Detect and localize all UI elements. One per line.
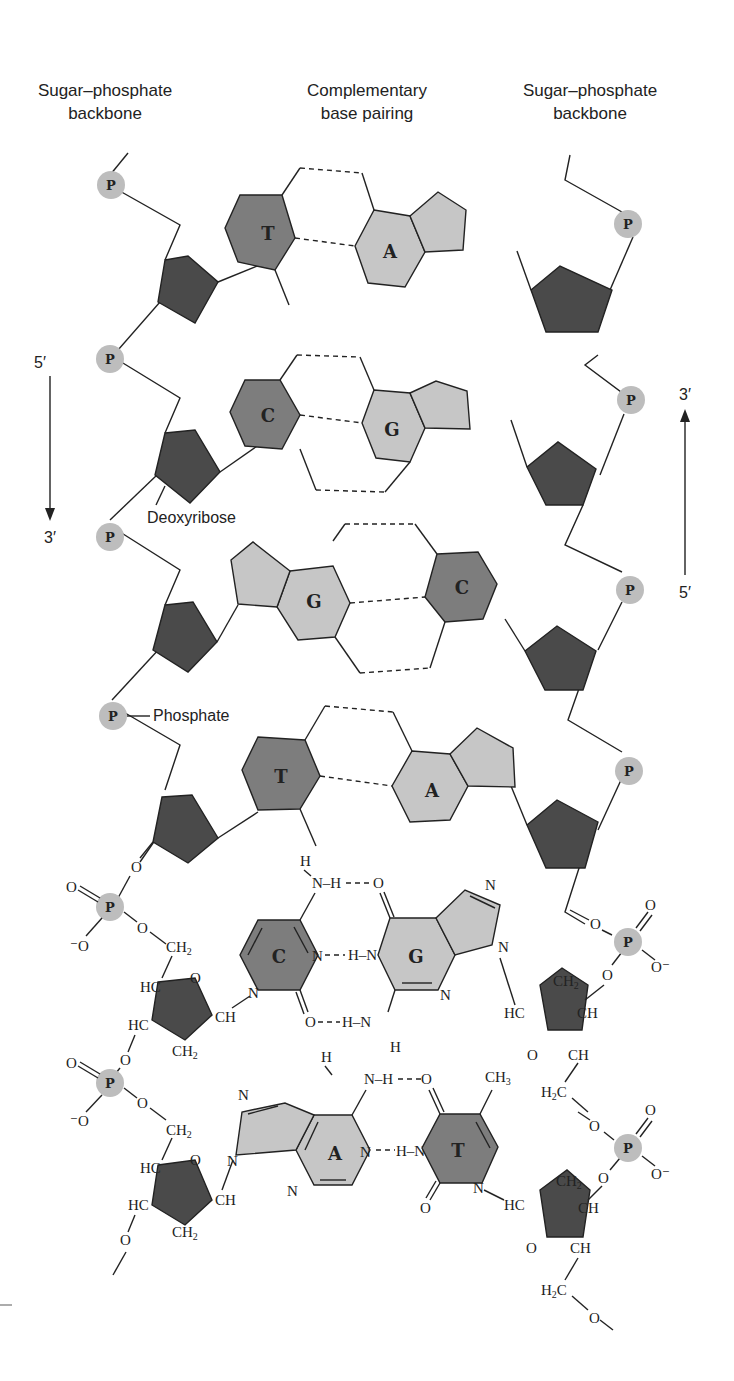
- svg-text:G: G: [306, 591, 321, 612]
- svg-text:O: O: [645, 897, 656, 913]
- svg-text:P: P: [623, 217, 633, 232]
- svg-text:N: N: [227, 1153, 238, 1169]
- svg-text:T: T: [274, 766, 288, 787]
- svg-text:P: P: [623, 935, 633, 950]
- svg-text:H–N: H–N: [348, 947, 377, 963]
- base-pair-T-A: T A: [242, 706, 515, 846]
- svg-text:P: P: [105, 1076, 115, 1091]
- svg-text:Sugar–phosphate: Sugar–phosphate: [523, 81, 657, 100]
- svg-text:P: P: [106, 178, 116, 193]
- svg-text:CH: CH: [570, 1240, 591, 1256]
- svg-text:base pairing: base pairing: [321, 104, 414, 123]
- svg-text:H2C: H2C: [541, 1282, 567, 1300]
- svg-text:CH2: CH2: [166, 1122, 192, 1140]
- deoxyribose-sugar: [527, 800, 598, 868]
- phosphate-group: P: [614, 928, 642, 956]
- phosphate-group: P: [96, 345, 124, 373]
- svg-text:CH2: CH2: [172, 1224, 198, 1242]
- deoxyribose-sugar: [525, 626, 596, 690]
- phosphate-group: P: [97, 171, 125, 199]
- deoxyribose-sugar: [153, 795, 218, 863]
- svg-text:O: O: [590, 916, 601, 932]
- deoxyribose-sugar: [155, 430, 220, 503]
- svg-text:C: C: [261, 405, 275, 426]
- svg-text:P: P: [625, 583, 635, 598]
- svg-text:N: N: [360, 1144, 371, 1160]
- svg-text:HC: HC: [504, 1005, 525, 1021]
- arrow-down-icon: [45, 508, 55, 521]
- right-backbone: P P P P: [505, 155, 645, 924]
- svg-text:P: P: [105, 900, 115, 915]
- svg-text:O: O: [131, 859, 142, 875]
- svg-text:CH3: CH3: [485, 1069, 511, 1087]
- svg-text:HC: HC: [128, 1017, 149, 1033]
- deoxyribose-sugar: [152, 1160, 212, 1225]
- svg-text:O: O: [589, 1118, 600, 1134]
- svg-text:N: N: [287, 1183, 298, 1199]
- chemical-base-pair-A-T: P O ⁻O O CH2 HC O CH HC CH2 O A N N N N …: [66, 1049, 670, 1330]
- svg-text:C: C: [455, 577, 469, 598]
- svg-text:CH2: CH2: [556, 1173, 582, 1191]
- svg-text:O: O: [589, 1310, 600, 1326]
- svg-text:O: O: [526, 1240, 537, 1256]
- svg-text:A: A: [327, 1143, 343, 1164]
- phosphate-annotation: Phosphate: [127, 707, 230, 724]
- svg-text:backbone: backbone: [68, 104, 142, 123]
- svg-text:H: H: [390, 1039, 401, 1055]
- svg-text:CH2: CH2: [166, 939, 192, 957]
- label-5-prime-right: 5′: [679, 584, 691, 601]
- svg-text:O: O: [190, 1152, 201, 1168]
- svg-text:CH: CH: [578, 1200, 599, 1216]
- svg-text:O: O: [645, 1102, 656, 1118]
- phosphate-group: P: [614, 1134, 642, 1162]
- svg-text:N: N: [312, 948, 323, 964]
- svg-text:A: A: [424, 780, 440, 801]
- svg-text:Deoxyribose: Deoxyribose: [147, 509, 236, 526]
- svg-text:Phosphate: Phosphate: [153, 707, 230, 724]
- svg-text:H: H: [321, 1049, 332, 1065]
- svg-text:H: H: [300, 853, 311, 869]
- svg-text:O: O: [66, 1055, 77, 1071]
- svg-text:P: P: [105, 352, 115, 367]
- svg-text:O: O: [305, 1014, 316, 1030]
- svg-text:backbone: backbone: [553, 104, 627, 123]
- svg-text:O: O: [66, 879, 77, 895]
- svg-text:O: O: [420, 1200, 431, 1216]
- svg-text:⁻O: ⁻O: [70, 938, 89, 954]
- svg-text:CH: CH: [215, 1192, 236, 1208]
- thymine-base: [225, 195, 295, 270]
- phosphate-group: P: [617, 386, 645, 414]
- svg-text:H2C: H2C: [541, 1084, 567, 1102]
- svg-text:Complementary: Complementary: [307, 81, 427, 100]
- svg-text:CH: CH: [215, 1009, 236, 1025]
- svg-text:C: C: [272, 946, 286, 967]
- svg-text:A: A: [382, 241, 398, 262]
- phosphate-group: P: [96, 893, 124, 921]
- svg-text:HC: HC: [140, 1160, 161, 1176]
- svg-text:N: N: [498, 939, 509, 955]
- svg-text:HC: HC: [128, 1197, 149, 1213]
- base-pair-G-C: G C: [231, 524, 497, 673]
- label-3-prime-right: 3′: [679, 386, 691, 403]
- label-3-prime-left: 3′: [44, 529, 56, 546]
- svg-text:O: O: [137, 1095, 148, 1111]
- phosphate-group: P: [615, 757, 643, 785]
- svg-text:P: P: [108, 709, 118, 724]
- right-strand-direction: 3′ 5′: [679, 386, 691, 601]
- deoxyribose-sugar: [531, 266, 612, 332]
- deoxyribose-sugar: [527, 442, 596, 505]
- svg-text:T: T: [451, 1140, 465, 1161]
- svg-text:N: N: [440, 987, 451, 1003]
- svg-text:O: O: [598, 1170, 609, 1186]
- svg-text:H–N: H–N: [342, 1014, 371, 1030]
- svg-text:N: N: [248, 985, 259, 1001]
- svg-text:N–H: N–H: [364, 1071, 393, 1087]
- base-pair-C-G: C G: [230, 355, 470, 492]
- phosphate-group: P: [614, 210, 642, 238]
- phosphate-group: P: [96, 523, 124, 551]
- dna-structure-diagram: Sugar–phosphate backbone Complementary b…: [0, 0, 734, 1381]
- deoxyribose-sugar: [153, 602, 217, 672]
- svg-text:H–N: H–N: [396, 1143, 425, 1159]
- left-strand-direction: 5′ 3′: [34, 354, 56, 546]
- svg-text:CH: CH: [568, 1047, 589, 1063]
